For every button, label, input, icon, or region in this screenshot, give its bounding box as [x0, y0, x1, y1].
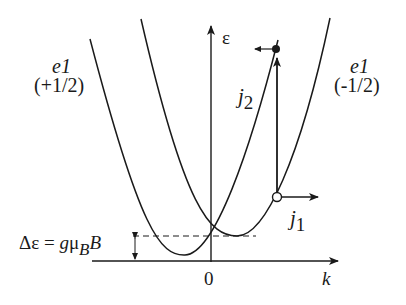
initial-state-open-dot — [273, 193, 282, 202]
band-diagram: ε k 0 e1 (+1/2) e1 (-1/2) j2 j1 Δε = gμB… — [0, 0, 406, 305]
final-state-filled-dot — [272, 45, 280, 53]
band-left-spin: (+1/2) — [34, 74, 84, 97]
splitting-label: Δε = gμBB — [19, 232, 102, 259]
j2-label: j2 — [235, 84, 253, 113]
energy-axis-label: ε — [222, 27, 230, 48]
band-right-spin: (-1/2) — [334, 74, 380, 97]
j1-label: j1 — [287, 206, 305, 235]
k-axis-label: k — [322, 268, 331, 289]
band-e1-minus-half — [141, 18, 330, 236]
origin-label: 0 — [204, 268, 214, 289]
band-e1-plus-half — [90, 39, 278, 255]
